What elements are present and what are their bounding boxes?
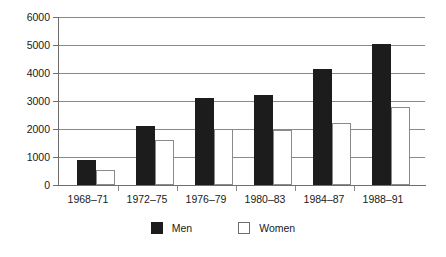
y-axis [58,17,59,186]
y-axis-tick-label: 1000 [6,152,50,163]
bar-chart: 6000 5000 4000 3000 2000 1000 0 [0,0,446,257]
gridline [58,101,425,102]
y-axis-tick-label: 3000 [6,96,50,107]
x-axis-tick [177,186,178,191]
y-axis-tick-label: 4000 [6,68,50,79]
x-axis-tick [118,186,119,191]
plot-area [58,17,425,185]
legend-swatch-women-icon [238,222,250,234]
bar-women [332,123,351,185]
bar-women [391,107,410,185]
legend-swatch-men-icon [151,222,163,234]
gridline [58,45,425,46]
x-axis-tick [295,186,296,191]
x-axis-tick [354,186,355,191]
x-axis-tick-label: 1988–91 [343,194,423,205]
bar-women [273,130,292,185]
chart-legend: Men Women [0,222,446,234]
x-axis-tick [236,186,237,191]
bar-women [155,140,174,185]
y-axis-tick-label: 6000 [6,12,50,23]
gridline [58,157,425,158]
bar-men [313,69,332,185]
y-axis-tick-label: 0 [6,180,50,191]
bar-women [96,170,115,185]
legend-item-men: Men [151,222,192,234]
legend-label-women: Women [259,223,295,234]
bar-men [372,44,391,185]
bar-men [254,95,273,185]
bar-men [77,160,96,185]
gridline [58,73,425,74]
legend-item-women: Women [238,222,295,234]
gridline [58,129,425,130]
legend-label-men: Men [172,223,192,234]
y-axis-tick-label: 5000 [6,40,50,51]
bar-men [195,98,214,185]
y-axis-tick-label: 2000 [6,124,50,135]
bar-men [136,126,155,185]
x-axis [58,185,426,186]
gridline [58,17,425,18]
bar-women [214,129,233,185]
